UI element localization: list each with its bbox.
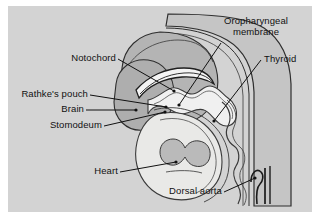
leader-dot-heart <box>174 160 177 163</box>
label-stomodeum: Stomodeum <box>8 120 102 131</box>
label-dorsal-aorta: Dorsal aorta <box>138 186 222 197</box>
label-thyroid: Thyroid <box>264 54 296 65</box>
leader-dot-stomodeum <box>163 110 166 113</box>
label-oropharyngeal-membrane-line2: membrane <box>233 26 279 37</box>
label-brain: Brain <box>8 104 84 115</box>
label-oropharyngeal-membrane: Oropharyngeal membrane <box>208 16 304 37</box>
leader-dot-rathkes-pouch <box>164 105 167 108</box>
leader-dot-brain <box>134 108 137 111</box>
label-rathkes-pouch: Rathke's pouch <box>8 89 88 100</box>
leader-dot-thyroid <box>212 119 215 122</box>
leader-dot-dorsal-aorta <box>253 176 256 179</box>
diagram-panel: Oropharyngeal membrane Thyroid Notochord… <box>8 6 312 212</box>
leader-dot-oropharyngeal-membrane <box>177 103 180 106</box>
figure-root: Oropharyngeal membrane Thyroid Notochord… <box>0 0 320 222</box>
leader-dot-notochord <box>172 89 175 92</box>
label-notochord: Notochord <box>18 53 116 64</box>
label-heart: Heart <box>64 166 118 177</box>
label-oropharyngeal-membrane-line1: Oropharyngeal <box>224 15 288 26</box>
